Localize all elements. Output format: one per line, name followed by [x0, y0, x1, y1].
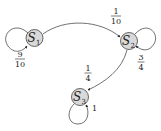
state-s1-letter: S [28, 31, 36, 45]
state-s1-sub: 1 [36, 39, 40, 47]
label-s2-s3-num: 1 [85, 64, 90, 73]
label-s1-s1: 9 10 [15, 50, 25, 69]
label-s2-s3: 1 4 [85, 64, 92, 83]
label-s1-s2-num: 1 [113, 7, 118, 16]
state-s2: S 2 [121, 33, 138, 51]
state-s2-letter: S [122, 34, 130, 48]
label-s2-s3-den: 4 [85, 74, 90, 83]
self-loop-s3 [69, 104, 88, 124]
label-s1-s2-den: 10 [111, 17, 121, 26]
label-s3-s3: 1 [92, 104, 97, 113]
state-s1: S 1 [26, 30, 43, 48]
edge-s1-s2 [43, 23, 120, 37]
state-s3: S 3 [72, 89, 89, 107]
self-loop-s1 [6, 28, 28, 51]
label-s1-s1-den: 10 [15, 60, 25, 69]
label-s2-s2-num: 3 [138, 53, 143, 62]
self-loop-s2 [135, 28, 156, 50]
state-s3-letter: S [73, 90, 81, 104]
label-s2-s2: 3 4 [138, 53, 145, 72]
label-s1-s2: 1 10 [111, 7, 121, 26]
label-s1-s1-num: 9 [17, 50, 22, 59]
state-s3-sub: 3 [82, 98, 86, 106]
edge-s2-s3 [88, 50, 127, 90]
state-s2-sub: 2 [131, 42, 135, 50]
markov-diagram: S 1 S 2 S 3 9 10 1 10 3 4 1 4 1 [0, 0, 161, 131]
label-s2-s2-den: 4 [138, 63, 143, 72]
